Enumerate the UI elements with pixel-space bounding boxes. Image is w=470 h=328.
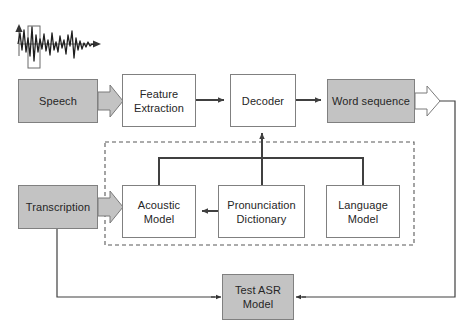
node-language-model[interactable]: Language Model — [326, 185, 400, 238]
node-acoustic-model-label-0: Acoustic — [138, 198, 180, 212]
node-transcription-label-0: Transcription — [26, 200, 90, 214]
node-acoustic-model[interactable]: Acoustic Model — [122, 185, 196, 238]
node-test-asr-model-label-1: Model — [243, 297, 273, 311]
node-language-model-label-0: Language — [338, 198, 388, 212]
block-arrow-speech-to-feature — [98, 85, 123, 117]
node-test-asr-model[interactable]: Test ASR Model — [222, 274, 294, 320]
node-test-asr-model-label-0: Test ASR — [235, 283, 281, 297]
node-feature-extraction[interactable]: Feature Extraction — [122, 74, 196, 127]
node-transcription[interactable]: Transcription — [18, 185, 98, 229]
node-decoder[interactable]: Decoder — [230, 74, 296, 127]
connector-models-bus-to-decoder — [158, 133, 364, 185]
node-language-model-label-1: Model — [348, 212, 378, 226]
node-feature-extraction-label-0: Feature — [140, 87, 179, 101]
node-pronunciation-dictionary-label-0: Pronunciation — [227, 198, 296, 212]
node-feature-extraction-label-1: Extraction — [134, 101, 184, 115]
node-acoustic-model-label-1: Model — [144, 212, 174, 226]
node-word-sequence[interactable]: Word sequence — [327, 79, 415, 123]
block-arrow-transcription-to-acoustic — [98, 191, 123, 223]
speech-waveform — [15, 24, 101, 68]
node-word-sequence-label-0: Word sequence — [332, 94, 410, 108]
connector-transcription-to-test-asr — [57, 229, 215, 297]
node-decoder-label-0: Decoder — [242, 94, 284, 108]
block-arrow-word-sequence-output — [415, 86, 440, 116]
node-pronunciation-dictionary[interactable]: Pronunciation Dictionary — [218, 185, 305, 238]
node-speech[interactable]: Speech — [18, 79, 98, 123]
diagram-canvas: Speech Feature Extraction Decoder Word s… — [0, 0, 470, 328]
node-pronunciation-dictionary-label-1: Dictionary — [237, 212, 287, 226]
node-speech-label-0: Speech — [39, 94, 77, 108]
